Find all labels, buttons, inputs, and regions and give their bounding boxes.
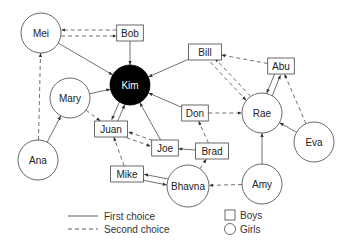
edge-eva-to-rae: [280, 123, 297, 133]
node-don: Don: [182, 105, 209, 121]
node-bill: Bill: [189, 44, 222, 60]
node-label: Don: [186, 108, 204, 119]
node-label: Mei: [33, 28, 49, 39]
node-amy: Amy: [242, 164, 282, 204]
edge-ana-to-mary: [47, 116, 61, 142]
legend-first-choice-label: First choice: [104, 211, 156, 222]
node-label: Bill: [198, 47, 211, 58]
node-rae: Rae: [242, 93, 282, 133]
node-ana: Ana: [18, 140, 58, 180]
node-label: Abu: [272, 61, 290, 72]
edge-bill-to-kim: [148, 59, 188, 77]
node-mary: Mary: [50, 78, 90, 118]
node-brad: Brad: [196, 143, 229, 159]
edge-mary-to-juan: [86, 110, 100, 121]
node-joe: Joe: [152, 140, 179, 156]
edge-rae-to-bill: [215, 58, 251, 96]
node-label: Mary: [59, 93, 81, 104]
edge-mike-to-bhavna: [143, 180, 167, 185]
edge-brad-to-don: [199, 121, 209, 143]
node-label: Kim: [121, 80, 138, 91]
node-label: Bob: [121, 28, 139, 39]
node-eva: Eva: [294, 122, 334, 162]
node-juan: Juan: [95, 121, 128, 137]
node-kim: Kim: [110, 65, 150, 105]
edge-eva-to-abu: [285, 74, 307, 124]
legend-second-choice-label: Second choice: [104, 224, 170, 235]
node-label: Bhavna: [171, 181, 205, 192]
edge-rae-to-abu: [272, 75, 280, 96]
edge-abu-to-bill: [221, 55, 267, 64]
edge-abu-to-rae: [267, 73, 275, 93]
node-label: Eva: [305, 137, 323, 148]
edge-kim-to-juan: [112, 102, 120, 120]
node-bhavna: Bhavna: [167, 165, 209, 207]
edge-mei-to-kim: [58, 43, 112, 75]
node-label: Ana: [29, 155, 47, 166]
edge-mike-to-juan: [114, 137, 124, 166]
edge-bhavna-to-mike: [144, 174, 168, 179]
node-bob: Bob: [117, 25, 144, 41]
edge-juan-to-joe: [126, 138, 150, 147]
node-label: Brad: [201, 146, 222, 157]
legend-girls-icon: [225, 224, 236, 235]
edge-bill-to-rae: [210, 62, 246, 100]
node-abu: Abu: [268, 58, 295, 74]
edge-don-to-kim: [148, 93, 181, 107]
node-label: Mike: [116, 169, 138, 180]
legend-boys-label: Boys: [240, 210, 262, 221]
legend-girls-label: Girls: [240, 224, 261, 235]
edge-ana-to-mei: [39, 53, 41, 140]
sociogram-diagram: MeiBobKimMaryBillAbuRaeDonJuanJoeBradEva…: [0, 0, 346, 247]
edge-joe-to-juan: [128, 132, 152, 141]
node-mike: Mike: [111, 166, 144, 182]
node-label: Joe: [157, 143, 174, 154]
legend-boys-icon: [225, 210, 235, 220]
edge-joe-to-kim: [140, 103, 161, 141]
edge-amy-to-bhavna: [209, 185, 242, 186]
nodes-layer: MeiBobKimMaryBillAbuRaeDonJuanJoeBradEva…: [18, 13, 334, 207]
edge-bhavna-to-brad: [200, 159, 207, 169]
edge-juan-to-kim: [117, 105, 125, 123]
edge-mary-to-kim: [90, 89, 111, 94]
legend: First choice Second choice Boys Girls: [68, 210, 262, 235]
node-mei: Mei: [21, 13, 61, 53]
node-label: Amy: [252, 179, 272, 190]
node-label: Juan: [100, 124, 122, 135]
node-label: Rae: [253, 108, 272, 119]
edge-brad-to-joe: [178, 149, 195, 150]
